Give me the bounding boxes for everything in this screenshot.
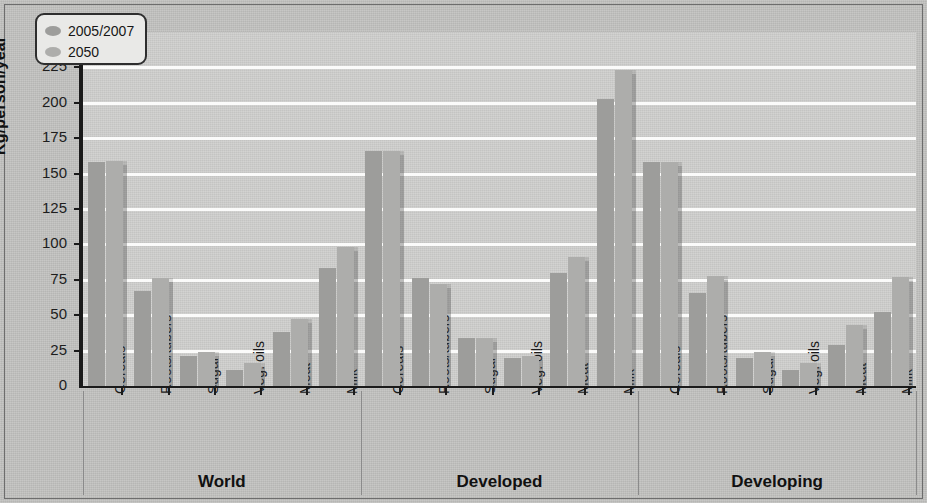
bar-shadow-top: [169, 278, 173, 282]
bar-world-veg-oils-2050: [244, 363, 261, 386]
bar-shadow-top: [215, 352, 219, 356]
bar-shadow-top: [123, 161, 127, 165]
bar-developing-meat-2050: [846, 325, 863, 386]
bar-body: [106, 161, 123, 386]
gridline: [83, 208, 916, 211]
bar-shadow: [123, 165, 127, 386]
bar-developing-meat-20052007: [828, 345, 845, 386]
bar-body: [226, 370, 243, 386]
bar-body: [615, 70, 632, 386]
group-separator-end: [916, 391, 917, 495]
bar-shadow: [817, 367, 821, 386]
bar-developing-veg-oils-20052007: [782, 370, 799, 386]
bar-world-sugar-2050: [198, 352, 215, 386]
y-tick-label-50: 50: [21, 305, 67, 322]
bar-body: [782, 370, 799, 386]
bar-shadow-top: [863, 325, 867, 329]
bar-body: [504, 358, 521, 386]
bar-developed-sugar-2050: [476, 338, 493, 386]
bar-body: [568, 257, 585, 386]
bar-body: [476, 338, 493, 386]
bar-developing-cereals-20052007: [643, 162, 660, 386]
bar-world-roots-tubers-20052007: [134, 291, 151, 386]
y-tick-label-0: 0: [21, 376, 67, 393]
bar-developed-roots-tubers-20052007: [412, 278, 429, 386]
bar-world-sugar-20052007: [180, 356, 197, 386]
bar-shadow: [863, 329, 867, 386]
bar-developed-milk-2050: [615, 70, 632, 386]
bar-shadow: [215, 356, 219, 386]
bar-developing-sugar-20052007: [736, 358, 753, 386]
y-tick-mark: [74, 66, 82, 68]
bar-shadow: [724, 280, 728, 386]
bar-body: [458, 338, 475, 386]
bar-shadow: [539, 360, 543, 386]
bar-developed-cereals-20052007: [365, 151, 382, 386]
bar-body: [707, 276, 724, 386]
y-tick-label-75: 75: [21, 270, 67, 287]
legend-label-series1: 2005/2007: [68, 24, 134, 38]
chart-legend: 2005/2007 2050: [35, 13, 147, 65]
bar-world-meat-2050: [291, 319, 308, 386]
bar-developed-cereals-2050: [383, 151, 400, 386]
y-tick-mark: [74, 243, 82, 245]
plot-area: [83, 32, 916, 386]
bar-shadow: [585, 261, 589, 386]
bar-developed-meat-2050: [568, 257, 585, 386]
bar-body: [88, 162, 105, 386]
bar-shadow: [678, 166, 682, 386]
bar-shadow-top: [724, 276, 728, 280]
bar-body: [643, 162, 660, 386]
bar-shadow: [771, 356, 775, 386]
bar-shadow: [632, 74, 636, 386]
y-tick-mark: [74, 279, 82, 281]
bar-developing-roots-tubers-2050: [707, 276, 724, 386]
bar-developing-veg-oils-2050: [800, 363, 817, 386]
bar-shadow-top: [909, 277, 913, 281]
group-label-developing: Developing: [638, 472, 916, 492]
bar-body: [522, 356, 539, 386]
group-separator-start: [83, 391, 84, 495]
bar-shadow: [447, 288, 451, 386]
bar-shadow: [493, 342, 497, 386]
bar-body: [892, 277, 909, 386]
bar-body: [134, 291, 151, 386]
bar-shadow: [261, 367, 265, 386]
legend-swatch-series1: [45, 26, 61, 36]
bar-shadow-top: [539, 356, 543, 360]
legend-item-2005-2007: 2005/2007: [45, 20, 145, 41]
scanned-page: Kg/person/year 0255075100125150175200225…: [0, 0, 927, 503]
bar-body: [874, 312, 891, 386]
bar-developed-sugar-20052007: [458, 338, 475, 386]
bar-shadow-top: [447, 284, 451, 288]
bar-body: [337, 247, 354, 386]
bar-body: [244, 363, 261, 386]
legend-item-2050: 2050: [45, 41, 145, 62]
gridline: [83, 279, 916, 282]
bar-shadow-top: [493, 338, 497, 342]
y-axis-title: Kg/person/year: [0, 36, 9, 155]
group-label-world: World: [83, 472, 361, 492]
bar-developing-cereals-2050: [661, 162, 678, 386]
bar-body: [754, 352, 771, 386]
bar-body: [365, 151, 382, 386]
y-tick-label-125: 125: [21, 199, 67, 216]
bar-shadow-top: [585, 257, 589, 261]
bar-shadow-top: [354, 247, 358, 251]
y-tick-mark: [74, 173, 82, 175]
chart-figure: Kg/person/year 0255075100125150175200225…: [4, 4, 923, 499]
y-tick-label-175: 175: [21, 128, 67, 145]
bar-body: [736, 358, 753, 386]
bar-world-milk-20052007: [319, 268, 336, 386]
bar-developing-milk-20052007: [874, 312, 891, 386]
bar-shadow-top: [400, 151, 404, 155]
y-tick-mark: [74, 137, 82, 139]
bar-body: [152, 278, 169, 386]
bar-body: [846, 325, 863, 386]
gridline: [83, 243, 916, 246]
gridline: [83, 314, 916, 317]
bar-shadow: [308, 323, 312, 386]
bar-body: [291, 319, 308, 386]
bar-world-cereals-20052007: [88, 162, 105, 386]
bar-shadow: [909, 281, 913, 386]
